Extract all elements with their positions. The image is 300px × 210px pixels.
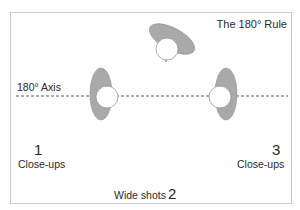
right-person-head	[209, 86, 231, 108]
right-person-figure	[209, 68, 237, 120]
position-1-label: Close-ups	[18, 159, 65, 170]
position-3-number: 3	[272, 142, 280, 157]
position-1-number: 1	[34, 142, 42, 157]
position-3-label: Close-ups	[237, 159, 284, 170]
diagram-canvas	[0, 0, 300, 210]
position-2-label: Wide shots	[114, 190, 166, 201]
top-person-figure	[145, 18, 199, 62]
top-person-nose	[165, 60, 167, 62]
position-2-number: 2	[168, 186, 176, 201]
left-person-head	[96, 86, 118, 108]
left-person-figure	[90, 68, 118, 120]
axis-label: 180° Axis	[17, 82, 61, 93]
top-person-head	[156, 38, 178, 60]
diagram-title: The 180° Rule	[217, 19, 287, 30]
